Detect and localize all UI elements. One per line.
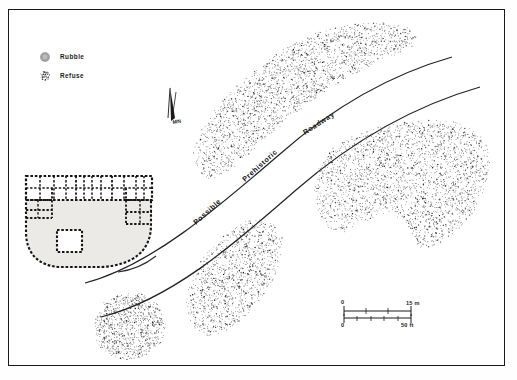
scale-max-metric: 15 m xyxy=(406,300,420,306)
roadway-word-roadway: Roadway xyxy=(301,110,336,137)
great-house-plan xyxy=(26,176,156,272)
legend-symbols xyxy=(40,52,50,80)
site-map-figure: Possible Prehistoric Roadway MN 0 15 m xyxy=(0,0,517,380)
north-arrow-tail xyxy=(168,88,170,118)
roadway-line-lower xyxy=(101,87,480,317)
legend-label-rubble: Rubble xyxy=(60,53,84,60)
scale-zero-metric: 0 xyxy=(341,299,344,305)
north-arrow-label: MN xyxy=(172,118,182,125)
roadway-word-possible: Possible xyxy=(191,197,223,227)
kiva-outline xyxy=(57,230,82,252)
legend-label-refuse: Refuse xyxy=(60,72,84,79)
refuse-swatch-icon xyxy=(40,71,50,81)
scale-zero-imperial: 0 xyxy=(341,322,344,328)
rubble-swatch-highlight xyxy=(43,55,48,60)
scale-bar-imperial: 0 50 ft xyxy=(341,314,414,328)
roadway-word-prehistoric: Prehistoric xyxy=(240,147,279,183)
scale-bar-metric: 0 15 m xyxy=(341,299,420,316)
scale-max-imperial: 50 ft xyxy=(401,322,414,328)
north-arrow: MN xyxy=(168,87,182,125)
